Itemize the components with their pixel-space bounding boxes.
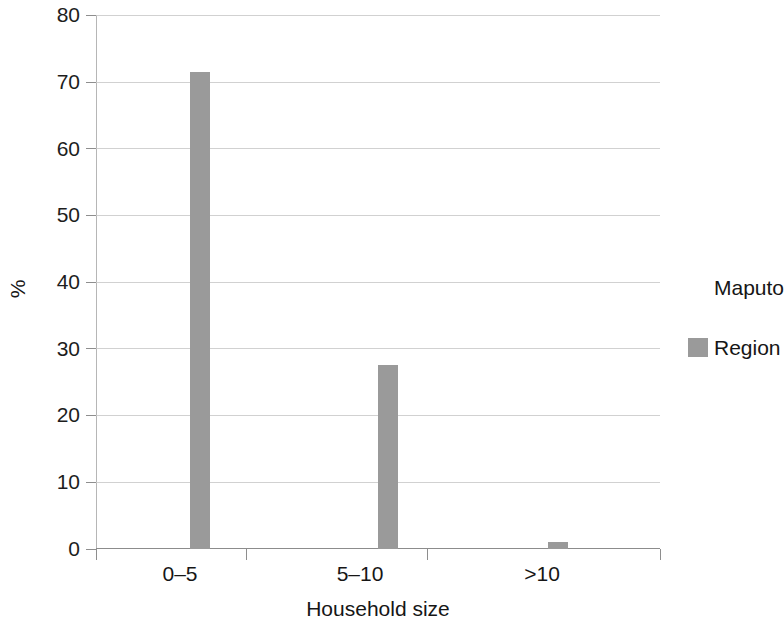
gridline-60: [96, 148, 660, 149]
legend-swatch-maputo-icon: [688, 278, 708, 297]
y-tick-label-60: 60: [2, 138, 80, 159]
x-tick-mark-2: [427, 549, 428, 560]
y-tick-label-50: 50: [2, 204, 80, 225]
y-tick-label-10: 10: [2, 471, 80, 492]
bar-region-5-10: [378, 365, 398, 549]
y-tick-label-70: 70: [2, 71, 80, 92]
gridline-70: [96, 82, 660, 83]
gridline-80: [96, 15, 660, 16]
x-tick-mark-left-edge: [96, 549, 97, 560]
legend-item-region[interactable]: Region: [688, 336, 781, 358]
x-tick-mark-right-edge: [660, 549, 661, 560]
legend-swatch-region-icon: [688, 338, 708, 357]
x-tick-label-5-10: 5–10: [305, 562, 415, 586]
legend-label-maputo: Maputo: [714, 277, 784, 298]
y-tick-label-0: 0: [2, 538, 80, 559]
y-tick-label-20: 20: [2, 404, 80, 425]
bar-region-gt10: [548, 542, 568, 549]
x-axis-title: Household size: [96, 597, 660, 621]
y-tick-label-30: 30: [2, 338, 80, 359]
x-tick-label-gt10: >10: [487, 562, 597, 586]
bar-region-0-5: [190, 72, 210, 549]
legend-item-maputo[interactable]: Maputo: [688, 276, 784, 298]
x-tick-mark-1: [246, 549, 247, 560]
x-tick-label-0-5: 0–5: [125, 562, 235, 586]
legend-label-region: Region: [714, 337, 781, 358]
gridline-40: [96, 282, 660, 283]
y-axis-title: %: [7, 269, 29, 309]
gridline-30: [96, 348, 660, 349]
gridline-50: [96, 215, 660, 216]
y-tick-label-80: 80: [2, 4, 80, 25]
plot-area: [96, 15, 660, 549]
